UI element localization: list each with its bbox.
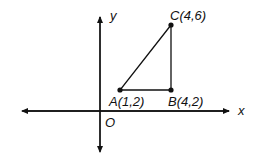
point-b: [168, 87, 173, 92]
x-axis-label: x: [237, 103, 245, 118]
point-a: [117, 87, 122, 92]
point-b-label: B(4,2): [168, 94, 203, 109]
point-c: [168, 22, 173, 27]
point-c-label: C(4,6): [170, 8, 206, 23]
point-a-label: A(1,2): [108, 94, 144, 109]
y-axis-label: y: [109, 8, 118, 23]
coordinate-diagram: y x O C(4,6) A(1,2) B(4,2): [0, 0, 257, 162]
diagram-svg: y x O C(4,6) A(1,2) B(4,2): [0, 0, 257, 162]
origin-label: O: [105, 115, 115, 130]
triangle-abc: [120, 25, 171, 90]
